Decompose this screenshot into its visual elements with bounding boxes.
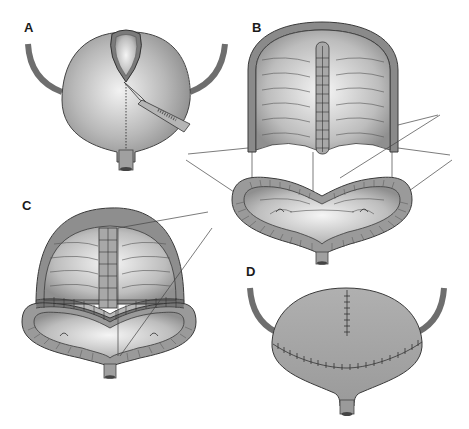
surgical-diagram xyxy=(0,0,469,429)
panel-c-illustration xyxy=(22,208,212,379)
panel-b-illustration xyxy=(186,22,452,265)
panel-d-illustration xyxy=(250,288,444,416)
panel-a-illustration xyxy=(28,30,225,171)
